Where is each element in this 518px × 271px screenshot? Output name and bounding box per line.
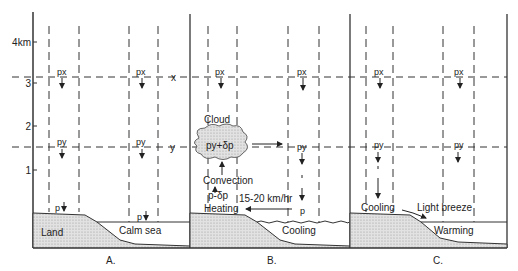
sea-breeze-diagram: 4km 3 2 1 x y Land Calm sea A. xyxy=(0,0,518,271)
py-left: py xyxy=(374,140,384,150)
sea-label: Calm sea xyxy=(119,225,162,236)
tick-3: 3 xyxy=(25,78,31,89)
wind-speed-label: 15-20 km/hr xyxy=(239,193,293,204)
panel-caption: B. xyxy=(267,255,276,266)
p-left: p xyxy=(55,203,60,213)
px-left: px xyxy=(374,67,384,77)
low-pressure-label: p-δp xyxy=(208,190,228,201)
panel-c: Warming C. px px py py Cooling Light bre… xyxy=(350,67,507,266)
level-y-label: y xyxy=(170,142,175,153)
cloud-label: Cloud xyxy=(204,114,230,125)
p-right: p xyxy=(137,212,142,222)
pressure-level-lines xyxy=(12,77,507,147)
py-right: py xyxy=(454,140,464,150)
sea-label: Cooling xyxy=(282,225,316,236)
px-right: px xyxy=(297,67,307,77)
py-right: py xyxy=(297,142,307,152)
tick-1: 1 xyxy=(25,165,31,176)
light-breeze-label: Light breeze xyxy=(417,202,472,213)
heating-label: Heating xyxy=(204,203,238,214)
panel-b: Cooling B. px px Cloud py+δp py p Convec… xyxy=(190,67,350,266)
panel-a: Land Calm sea A. px px py py p p xyxy=(33,67,190,266)
tick-4km: 4km xyxy=(12,37,31,48)
land-cooling-label: Cooling xyxy=(361,202,395,213)
level-x-label: x xyxy=(171,72,176,83)
px-right: px xyxy=(136,67,146,77)
px-left: px xyxy=(215,67,225,77)
panel-caption: C. xyxy=(433,255,443,266)
px-left: px xyxy=(57,67,67,77)
sea-label: Warming xyxy=(434,225,474,236)
p-right: p xyxy=(300,206,305,216)
py-right: py xyxy=(136,137,146,147)
py-left: py xyxy=(57,137,67,147)
convection-label: Convection xyxy=(203,175,253,186)
panel-caption: A. xyxy=(106,255,115,266)
land-label: Land xyxy=(41,227,63,238)
cloud-pressure-label: py+δp xyxy=(206,140,234,151)
px-right: px xyxy=(454,67,464,77)
tick-2: 2 xyxy=(25,121,31,132)
